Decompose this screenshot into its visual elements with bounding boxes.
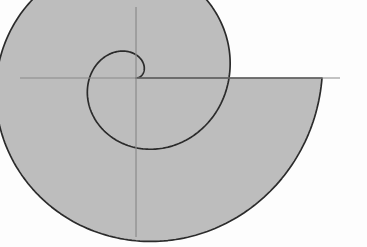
figure-root (0, 0, 367, 247)
spiral-plot (0, 0, 367, 247)
spiral-shaded-region (0, 0, 322, 241)
